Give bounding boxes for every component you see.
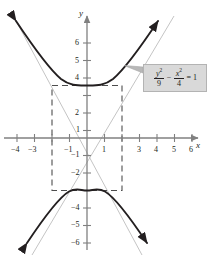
denominator-4: 4 [177, 79, 181, 88]
equation-callout-box: y2 9 − x2 4 = 1 [143, 64, 207, 92]
x-tick-label-6: 6 [189, 146, 193, 154]
fraction-x-squared-over-4: x2 4 [174, 68, 184, 88]
y-tick-label-4: 4 [75, 74, 79, 82]
numerator-x-squared: x2 [174, 68, 184, 79]
y-tick-label-5: 5 [75, 57, 79, 65]
x-tick-label-1: 1 [102, 146, 106, 154]
numerator-y-squared: y2 [154, 68, 164, 79]
x-tick-label--3: −3 [28, 146, 37, 154]
exponent-2: 2 [159, 67, 162, 73]
y-tick-label--4: −4 [71, 204, 80, 212]
hyperbola-figure: −4 −3 −1 1 3 4 5 6 6 5 4 2 1 −1 −2 −4 −5… [0, 0, 211, 255]
y-tick-label--6: −6 [71, 239, 80, 247]
minus-operator: − [167, 74, 172, 82]
axes [4, 16, 198, 250]
equals-one: = 1 [187, 74, 198, 82]
x-tick-label-4: 4 [154, 146, 158, 154]
denominator-9: 9 [157, 79, 161, 88]
x-tick-label--4: −4 [11, 146, 20, 154]
y-tick-label-1: 1 [76, 126, 80, 134]
x-axis-label: x [196, 141, 200, 150]
y-tick-label-2: 2 [75, 109, 79, 117]
plot-canvas [0, 0, 211, 255]
y-tick-label--2: −2 [71, 169, 80, 177]
y-axis-label: y [79, 9, 83, 18]
exponent-2-second: 2 [179, 67, 182, 73]
x-tick-label-5: 5 [172, 146, 176, 154]
callout-pointer [124, 66, 143, 74]
y-tick-label--1: −1 [71, 151, 80, 159]
y-tick-label-6: 6 [75, 39, 79, 47]
x-tick-label-3: 3 [137, 146, 141, 154]
fraction-y-squared-over-9: y2 9 [154, 68, 164, 88]
y-tick-label--5: −5 [71, 221, 80, 229]
asymptote-positive-slope [32, 16, 174, 255]
equation-content: y2 9 − x2 4 = 1 [153, 68, 197, 88]
